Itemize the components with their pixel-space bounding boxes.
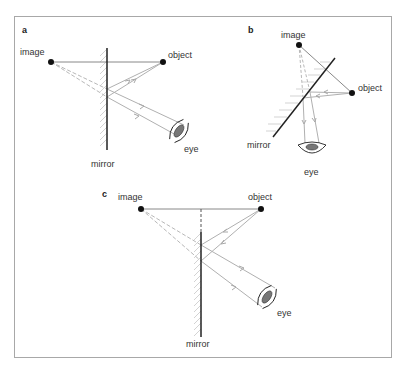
reflected-ray — [310, 92, 319, 143]
mirror-hatching — [194, 233, 201, 336]
eye-label: eye — [184, 144, 199, 154]
incident-ray — [310, 92, 352, 93]
object-point — [349, 90, 355, 96]
virtual-ray — [51, 62, 107, 89]
object-label: object — [358, 83, 383, 93]
virtual-ray — [141, 209, 201, 261]
eye-label: eye — [304, 167, 319, 177]
eye-icon — [254, 283, 280, 311]
incident-ray — [107, 62, 163, 89]
panel-b: b image object mirror eye — [247, 25, 383, 177]
reflected-ray — [201, 245, 275, 288]
panel-b-label: b — [248, 25, 254, 35]
mirror-hatching — [100, 49, 107, 146]
virtual-ray — [51, 62, 107, 97]
panel-c-label: c — [102, 189, 107, 199]
image-label: image — [281, 30, 306, 40]
eye-label: eye — [277, 308, 292, 318]
reflected-ray — [303, 98, 305, 143]
panel-c: c image object mirror eye — [102, 189, 292, 349]
panel-a-label: a — [22, 25, 28, 35]
object-label: object — [248, 192, 273, 202]
object-label: object — [168, 50, 193, 60]
object-point — [258, 206, 264, 212]
virtual-ray — [141, 209, 201, 245]
image-point — [296, 42, 302, 48]
image-label: image — [20, 47, 45, 57]
reflected-ray — [201, 261, 262, 307]
eye-icon — [166, 117, 192, 145]
image-label: image — [118, 192, 143, 202]
incident-ray — [201, 209, 261, 245]
mirror-label: mirror — [186, 339, 210, 349]
object-point — [160, 59, 166, 65]
incident-ray — [201, 209, 261, 261]
mirror-label: mirror — [247, 140, 271, 150]
image-point — [48, 59, 54, 65]
panel-a: a image object mirror eye — [20, 25, 199, 169]
mirror-reflection-diagram: a image object mirror eye — [0, 0, 403, 367]
reflected-ray — [107, 89, 184, 125]
image-point — [138, 206, 144, 212]
mirror-label: mirror — [91, 159, 115, 169]
eye-icon — [298, 142, 326, 153]
virtual-ray — [299, 45, 310, 92]
